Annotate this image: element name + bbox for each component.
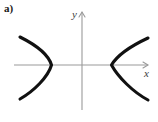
hyperbola-left-branch [20,37,52,99]
hyperbola-right-branch [112,38,149,100]
figure-panel: a) y x [0,0,158,122]
y-axis-label: y [71,8,77,20]
x-axis-label: x [143,67,149,79]
hyperbola-plot: y x [0,0,158,122]
